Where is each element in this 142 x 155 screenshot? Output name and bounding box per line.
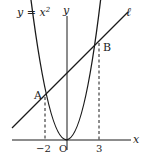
parabola-curve: [31, 0, 101, 140]
line-label: ℓ: [126, 5, 131, 19]
origin-label: O: [59, 143, 67, 154]
line-l: [12, 12, 128, 128]
curve-label: y = x2: [16, 6, 51, 19]
tick-label-3: 3: [96, 143, 102, 154]
point-a-label: A: [33, 89, 43, 102]
parabola-line-diagram: y = x2 y ℓ B A x −2 O 3: [0, 0, 142, 155]
point-b-label: B: [103, 41, 111, 54]
x-axis-label: x: [133, 133, 140, 146]
y-axis-label: y: [62, 4, 70, 17]
tick-label-neg2: −2: [36, 143, 51, 154]
